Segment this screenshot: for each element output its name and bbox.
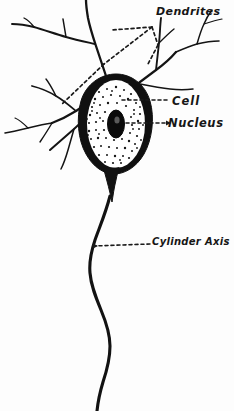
label-nucleus: Nucleus <box>168 116 224 130</box>
nucleus <box>108 110 125 138</box>
label-dendrites: Dendrites <box>156 5 220 18</box>
label-cylinder-axis: Cylinder Axis <box>152 236 230 247</box>
label-cell: Cell <box>172 94 200 108</box>
axon-cylinder-axis <box>90 168 119 411</box>
neuron-illustration <box>0 0 234 411</box>
nucleolus <box>114 116 119 123</box>
cylinder-axis-leader-line <box>93 244 150 246</box>
neuron-diagram: Dendrites Cell Nucleus Cylinder Axis <box>0 0 234 411</box>
cylinder-axis-leader-arrow <box>93 244 98 249</box>
